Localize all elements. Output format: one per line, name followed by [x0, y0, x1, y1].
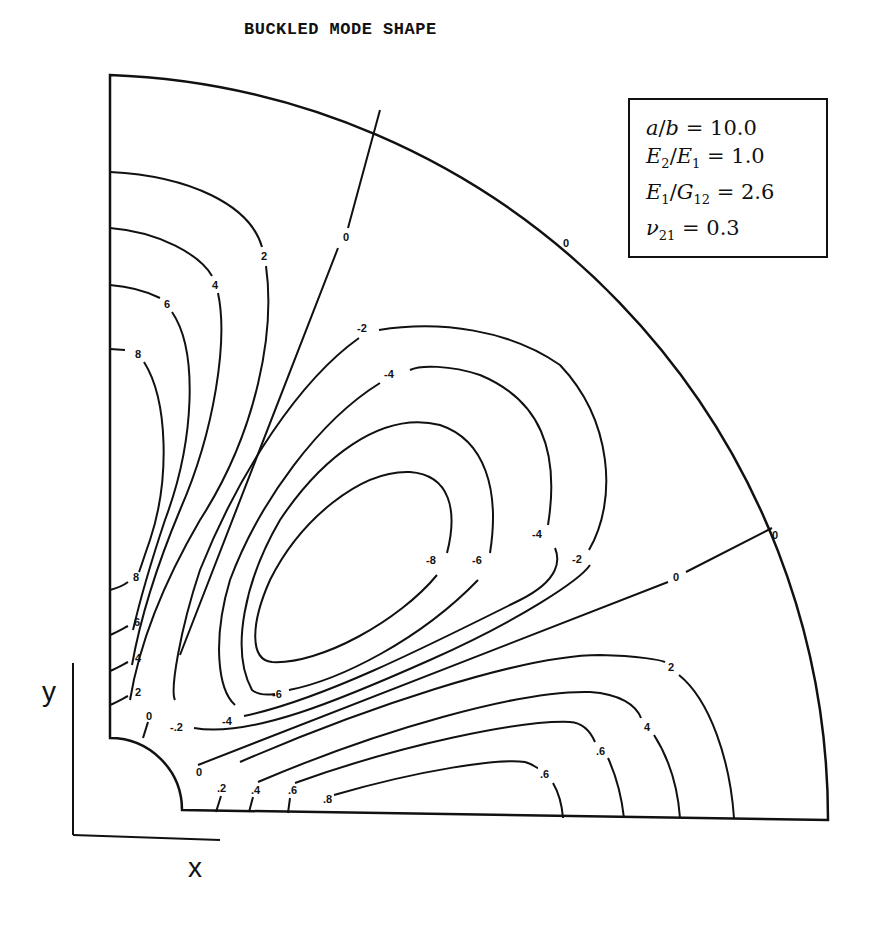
contour-pos-2-lower: [240, 655, 734, 818]
contour-label: .6: [288, 784, 297, 796]
contour-label: -2: [572, 553, 582, 565]
x-axis-label: x: [188, 852, 202, 884]
contour-pos-6-lower-tick: [110, 626, 128, 635]
nodal-line-right: [198, 528, 772, 765]
contour-pos-4-lower-tick: [110, 662, 128, 671]
contour-label: 2: [261, 250, 267, 262]
contour-pos-8-upper: [110, 349, 164, 572]
contour-label: 4: [644, 721, 651, 733]
contour-neg-8: [255, 472, 451, 662]
contour-label: -8: [426, 554, 436, 566]
contour-label: 8: [135, 348, 141, 360]
contour-label: -4: [384, 368, 395, 380]
contour-label: -6: [472, 554, 482, 566]
contour-label: -6: [272, 688, 282, 700]
contour-label: 0: [146, 710, 152, 722]
contour-label: 4: [212, 279, 219, 291]
contour-pos-6-upper: [110, 285, 190, 630]
x-axis-line: [73, 835, 220, 840]
contour-label: 0: [343, 231, 349, 243]
contour-label: .6: [596, 745, 605, 757]
legend-shear-ratio: E1/G12 = 2.6: [646, 178, 826, 214]
contour-pos-4-lower: [258, 692, 680, 818]
contour-label: -.2: [170, 721, 183, 733]
contour-zero-left-tick: [143, 722, 148, 738]
legend-modulus-ratio: E2/E1 = 1.0: [646, 142, 826, 178]
contour-label: .6: [540, 768, 549, 780]
nodal-line-upper: [180, 110, 380, 655]
contour-pos-4-upper: [110, 228, 221, 665]
contour-label: 6: [134, 616, 140, 628]
contour-label: 4: [135, 652, 142, 664]
contour-label: 2: [135, 686, 141, 698]
contour-label: -4: [532, 528, 543, 540]
legend-aspect-ratio: a/b = 10.0: [646, 114, 826, 142]
contour-label: -2: [357, 322, 367, 334]
y-axis-label: y: [42, 676, 56, 708]
contour-pos-8-lower-tick: [110, 582, 128, 590]
contour-label: -4: [222, 715, 233, 727]
contour-pos-2-lower-tick: [110, 696, 128, 705]
contour-label: .8: [323, 793, 332, 805]
contour-label: 0: [563, 237, 569, 249]
contour-label: 0: [772, 529, 778, 541]
contour-pos-6-lower: [295, 722, 624, 818]
contour-label: .2: [217, 782, 226, 794]
contour-neg-4: [219, 367, 557, 716]
parameter-legend: a/b = 10.0 E2/E1 = 1.0 E1/G12 = 2.6 ν21 …: [628, 98, 828, 258]
contour-label: 6: [164, 298, 170, 310]
contour-neg-6: [242, 422, 493, 694]
contour-labels: 0 0 0 0 2 4 6 8 -2 -4 -8 -6 -4 -2 8 6 4 …: [133, 231, 778, 805]
legend-poisson-ratio: ν21 = 0.3: [646, 214, 826, 250]
contour-label: 0: [196, 766, 202, 778]
contour-pos-8-lower: [334, 761, 563, 818]
contour-label: 2: [668, 661, 674, 673]
contour-label: .4: [251, 784, 261, 796]
contour-label: 0: [673, 571, 679, 583]
contour-label: 8: [133, 571, 139, 583]
